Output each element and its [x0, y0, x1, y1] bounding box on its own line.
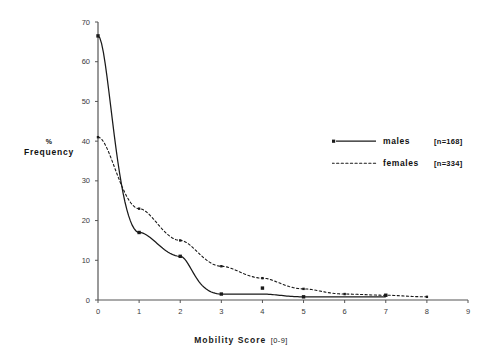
x-axis-label: Mobility Score [0-9] — [0, 329, 482, 347]
legend-count-females: [n=334] — [434, 159, 463, 168]
y-tick-label: 70 — [82, 18, 90, 27]
data-point-marker — [138, 207, 140, 209]
legend-label-males: males — [383, 136, 431, 146]
y-tick-label: 10 — [82, 256, 90, 265]
legend-item-males[interactable]: males [n=168] — [332, 130, 463, 152]
data-point-marker — [137, 231, 140, 234]
data-point-marker — [343, 293, 345, 295]
y-tick-label: 20 — [82, 216, 90, 225]
data-point-marker — [302, 295, 305, 298]
x-tick-label: 7 — [384, 307, 388, 316]
y-tick-label: 50 — [82, 97, 90, 106]
data-point-marker — [261, 286, 264, 289]
data-point-marker — [426, 296, 428, 298]
data-point-marker — [302, 288, 304, 290]
data-point-marker — [179, 239, 181, 241]
x-tick-label: 2 — [178, 307, 182, 316]
legend-label-females: females — [383, 158, 431, 168]
legend-swatch-females-dotted-line — [332, 158, 378, 168]
x-tick-label: 3 — [219, 307, 223, 316]
x-tick-label: 5 — [301, 307, 305, 316]
data-point-marker — [220, 265, 222, 267]
data-point-marker — [96, 34, 99, 37]
x-axis-label-range: [0-9] — [271, 336, 288, 345]
x-tick-label: 8 — [425, 307, 429, 316]
chart-legend: males [n=168] females [n=334] — [332, 130, 463, 174]
x-axis-label-text: Mobility Score — [194, 335, 266, 345]
y-axis-ticks: 010203040506070 — [82, 18, 98, 305]
legend-swatch-males-solid-line — [332, 136, 378, 146]
data-point-marker — [261, 277, 263, 279]
data-point-marker — [220, 292, 223, 295]
x-tick-label: 6 — [343, 307, 347, 316]
x-tick-label: 4 — [260, 307, 264, 316]
y-axis-label-percent: % — [6, 138, 92, 147]
y-tick-label: 60 — [82, 57, 90, 66]
y-tick-label: 30 — [82, 176, 90, 185]
y-axis-label: % Frequency — [6, 138, 92, 157]
x-axis-ticks: 0123456789 — [96, 300, 470, 316]
data-point-marker — [179, 255, 182, 258]
legend-count-males: [n=168] — [434, 137, 463, 146]
data-point-marker — [384, 294, 387, 297]
legend-item-females[interactable]: females [n=334] — [332, 152, 463, 174]
chart-figure: 010203040506070 0123456789 % Frequency M… — [0, 0, 482, 347]
x-tick-label: 9 — [466, 307, 470, 316]
y-axis-label-text: Frequency — [6, 147, 92, 158]
y-tick-label: 0 — [86, 296, 90, 305]
x-tick-label: 0 — [96, 307, 100, 316]
data-point-marker — [97, 136, 99, 138]
x-tick-label: 1 — [137, 307, 141, 316]
